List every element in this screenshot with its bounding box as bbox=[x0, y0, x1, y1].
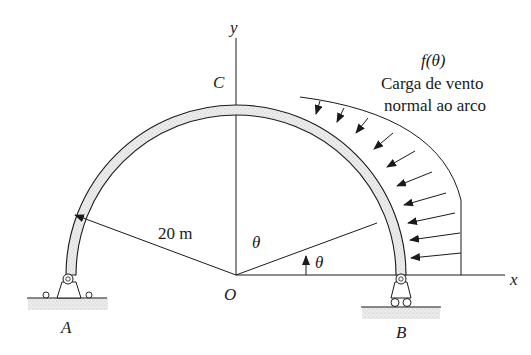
support-b-roller bbox=[361, 274, 441, 319]
radius-arrow bbox=[75, 215, 236, 275]
theta-arrow-label: θ bbox=[315, 253, 323, 272]
origin-label: O bbox=[224, 285, 236, 304]
load-description-line1: Carga de vento bbox=[381, 74, 484, 93]
load-arrow bbox=[387, 151, 415, 167]
radius-label: 20 m bbox=[158, 224, 192, 243]
crown-label: C bbox=[213, 73, 225, 92]
load-arrow bbox=[404, 193, 446, 205]
load-arrow bbox=[356, 118, 368, 133]
load-arrow bbox=[397, 172, 432, 186]
load-arrow bbox=[408, 213, 455, 223]
load-arrow bbox=[411, 253, 461, 258]
arch-diagram: y x C O A B 20 m θ θ f(θ) Carga de vento… bbox=[0, 0, 531, 355]
load-arrow bbox=[374, 133, 393, 149]
load-arrow bbox=[316, 101, 320, 114]
load-description-line2: normal ao arco bbox=[384, 96, 486, 115]
support-b-label: B bbox=[396, 323, 407, 342]
support-a-pin bbox=[27, 274, 108, 310]
theta-inner-label: θ bbox=[252, 233, 260, 252]
load-arrow bbox=[337, 108, 344, 122]
load-arrow bbox=[410, 233, 460, 240]
support-a-label: A bbox=[60, 318, 72, 337]
y-axis-label: y bbox=[228, 18, 238, 37]
x-axis-label: x bbox=[509, 270, 518, 289]
load-arrows bbox=[316, 101, 461, 258]
load-function-label: f(θ) bbox=[421, 51, 446, 70]
